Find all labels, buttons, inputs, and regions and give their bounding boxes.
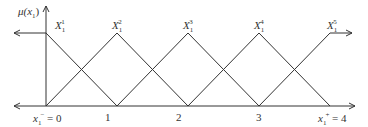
set-label-4: X14: [254, 19, 264, 34]
set-sup: 3: [189, 18, 193, 26]
tick-label: 2: [176, 111, 182, 123]
membership-function-diagram: μ(x1) X11 X12 X13 X14 X15 x1− = 0 1 2 3 …: [0, 0, 368, 127]
set-2-membership: [46, 33, 188, 106]
tick-eq: = 0: [44, 112, 61, 124]
y-label-close: ): [36, 5, 40, 17]
set-sup: 4: [260, 18, 264, 26]
set-3-membership: [117, 33, 259, 106]
tick-eq: = 4: [329, 112, 346, 124]
x-tick-3: 3: [256, 112, 262, 123]
set-label-5: X15: [327, 19, 337, 34]
set-label-3: X13: [183, 19, 193, 34]
y-axis-label: μ(x1): [18, 6, 39, 20]
set-label-2: X12: [112, 19, 122, 34]
set-4-membership: [188, 33, 330, 106]
set-sup: 5: [333, 18, 337, 26]
x-tick-2: 2: [176, 112, 182, 123]
y-label-base: μ(x: [18, 5, 32, 17]
set-sub: 1: [62, 26, 66, 34]
x-tick-4: x1+ = 4: [318, 112, 347, 127]
set-sup: 2: [118, 18, 122, 26]
set-sub: 1: [261, 26, 265, 34]
set-sub: 1: [119, 26, 123, 34]
set-label-1: X11: [55, 19, 65, 34]
tick-label: 3: [256, 111, 262, 123]
set-sub: 1: [190, 26, 194, 34]
tick-label: 1: [105, 111, 111, 123]
x-tick-0: x1− = 0: [33, 112, 62, 127]
x-tick-1: 1: [105, 112, 111, 123]
tick-sub: 1: [323, 119, 327, 127]
tick-sub: 1: [38, 119, 42, 127]
set-sup: 1: [61, 18, 65, 26]
set-sub: 1: [334, 26, 338, 34]
